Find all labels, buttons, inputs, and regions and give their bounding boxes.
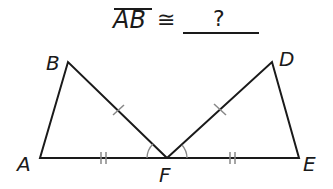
vertex-label-f: F: [159, 163, 171, 187]
vertex-label-d: D: [279, 47, 294, 71]
triangle-def: [167, 62, 299, 158]
vertex-label-e: E: [303, 152, 316, 176]
triangle-figure: B A F D E: [0, 0, 333, 189]
vertex-label-a: A: [15, 152, 31, 176]
triangle-abf: [40, 62, 167, 158]
vertex-label-b: B: [46, 51, 60, 75]
angle-arc-afb: [147, 144, 153, 158]
angle-arc-dfe: [182, 145, 187, 158]
